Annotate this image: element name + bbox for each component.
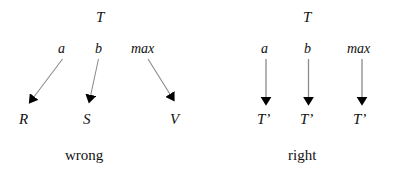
wrong-edge-label-a: a [58, 42, 65, 56]
wrong-edge-label-b: b [95, 42, 102, 56]
right-edge-label-b: b [304, 42, 311, 56]
wrong-target-label-r: R [19, 112, 28, 127]
right-root-label: T [303, 10, 311, 25]
wrong-caption: wrong [65, 148, 103, 163]
right-target-label-max: T’ [353, 112, 366, 127]
right-caption: right [288, 148, 316, 163]
wrong-edge-label-max: max [131, 42, 154, 56]
right-target-label-b: T’ [300, 112, 313, 127]
right-edge-label-max: max [347, 42, 370, 56]
wrong-target-label-s: S [83, 112, 91, 127]
wrong-target-label-v: V [170, 112, 179, 127]
right-target-label-a: T’ [257, 112, 270, 127]
arrow-wrong-max [148, 59, 171, 95]
wrong-root-label: T [96, 10, 104, 25]
arrow-wrong-b [91, 59, 99, 96]
type-rule-diagram: T a b max R S V wrong T a b max T’ T’ T’… [0, 0, 395, 180]
arrow-layer [0, 0, 395, 180]
arrow-wrong-a [34, 59, 63, 98]
right-edge-label-a: a [261, 42, 268, 56]
